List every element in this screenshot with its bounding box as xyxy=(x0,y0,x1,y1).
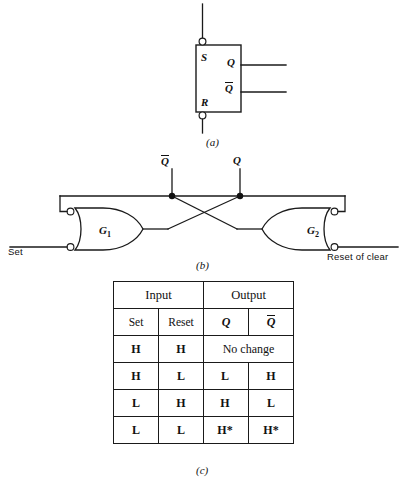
gate-g2-body xyxy=(262,208,330,250)
gate-label-g1: G1 xyxy=(99,225,111,239)
table-cell-q: H* xyxy=(204,417,249,444)
table-cell-reset: H xyxy=(159,390,204,417)
gates-node-label-qbar: Q xyxy=(161,155,169,168)
s-input-bubble xyxy=(199,38,206,45)
gate-label-g2-text: G xyxy=(307,224,315,236)
table-cell-qbar: H xyxy=(249,363,294,390)
symbol-label-q: Q xyxy=(227,57,235,68)
table-cell-set: H xyxy=(114,336,159,363)
table-cell-reset: H xyxy=(159,336,204,363)
table-group-header-input: Input xyxy=(114,282,204,309)
panel-caption-a: (a) xyxy=(206,136,219,148)
table-group-header-output: Output xyxy=(204,282,294,309)
junction-dot-qbar xyxy=(169,193,175,199)
table-header-q: Q xyxy=(204,309,249,336)
table-cell-set: L xyxy=(114,390,159,417)
truth-table: Input Output Set Reset Q Q H H No change… xyxy=(113,281,294,444)
table-row: H L L H xyxy=(114,363,294,390)
table-row: L L H* H* xyxy=(114,417,294,444)
panel-caption-c: (c) xyxy=(196,464,208,476)
junction-dot-q xyxy=(237,193,243,199)
table-cell-set: L xyxy=(114,417,159,444)
gates-input-label-set: Set xyxy=(8,247,23,257)
table-cell-q: L xyxy=(204,363,249,390)
table-header-set: Set xyxy=(114,309,159,336)
table-header-reset: Reset xyxy=(159,309,204,336)
gates-node-label-qbar-text: Q xyxy=(161,155,169,168)
gate-g2-input-bubble-top xyxy=(331,208,338,215)
table-row: L H H L xyxy=(114,390,294,417)
gate-g2-input-bubble-bottom xyxy=(331,244,338,251)
table-cell-set: H xyxy=(114,363,159,390)
table-row: H H No change xyxy=(114,336,294,363)
table-cell-qbar: H* xyxy=(249,417,294,444)
feedback-loop-left xyxy=(60,196,67,212)
gate-label-g1-text: G xyxy=(99,224,107,236)
gate-g1-input-bubble-bottom xyxy=(67,244,74,251)
table-cell-no-change: No change xyxy=(204,336,294,363)
gate-label-g1-sub: 1 xyxy=(107,230,111,239)
table-cell-reset: L xyxy=(159,417,204,444)
gate-label-g2-sub: 2 xyxy=(315,230,319,239)
table-cell-reset: L xyxy=(159,363,204,390)
cross-wire-q-to-g1 xyxy=(168,196,240,229)
symbol-label-r: R xyxy=(201,97,208,108)
table-header-qbar-text: Q xyxy=(267,315,276,329)
table-cell-q: H xyxy=(204,390,249,417)
gates-node-label-q: Q xyxy=(233,155,241,166)
gate-label-g2: G2 xyxy=(307,225,319,239)
feedback-loop-right xyxy=(338,196,345,212)
table-column-header-row: Set Reset Q Q xyxy=(114,309,294,336)
table-cell-qbar: L xyxy=(249,390,294,417)
symbol-label-s: S xyxy=(201,52,207,63)
gate-g1-input-bubble-top xyxy=(67,208,74,215)
figure-page: S R Q Q (a) Q Q G1 G2 Set Reset of clear… xyxy=(0,0,405,485)
symbol-label-qbar-text: Q xyxy=(225,82,233,95)
table-header-qbar: Q xyxy=(249,309,294,336)
r-input-bubble xyxy=(199,112,206,119)
table-group-header-row: Input Output xyxy=(114,282,294,309)
panel-caption-b: (b) xyxy=(196,259,209,271)
gates-input-label-reset: Reset of clear xyxy=(327,252,388,262)
symbol-label-qbar: Q xyxy=(225,82,233,95)
